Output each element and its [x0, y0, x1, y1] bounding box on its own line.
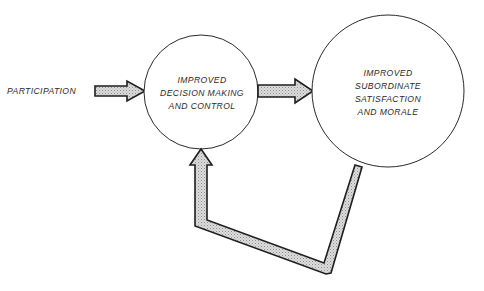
- decision-node-line-3: AND CONTROL: [151, 100, 253, 113]
- decision-node-line-1: IMPROVED: [151, 74, 253, 87]
- decision-node-line-2: DECISION MAKING: [151, 87, 253, 100]
- decision-to-satisfaction-arrow: [258, 79, 313, 103]
- feedback-arrow: [190, 149, 362, 274]
- participation-text: PARTICIPATION: [7, 85, 76, 98]
- participation-label: PARTICIPATION: [7, 85, 76, 98]
- diagram-graphics: [0, 0, 484, 291]
- satisfaction-node-line-3: SATISFACTION: [323, 93, 453, 106]
- satisfaction-node-line-4: AND MORALE: [323, 106, 453, 119]
- satisfaction-node-line-1: IMPROVED: [323, 67, 453, 80]
- diagram-canvas: PARTICIPATION IMPROVED DECISION MAKING A…: [0, 0, 484, 291]
- participation-arrow: [95, 81, 145, 101]
- satisfaction-node-line-2: SUBORDINATE: [323, 80, 453, 93]
- satisfaction-node-label: IMPROVED SUBORDINATE SATISFACTION AND MO…: [323, 67, 453, 119]
- decision-node-label: IMPROVED DECISION MAKING AND CONTROL: [151, 74, 253, 113]
